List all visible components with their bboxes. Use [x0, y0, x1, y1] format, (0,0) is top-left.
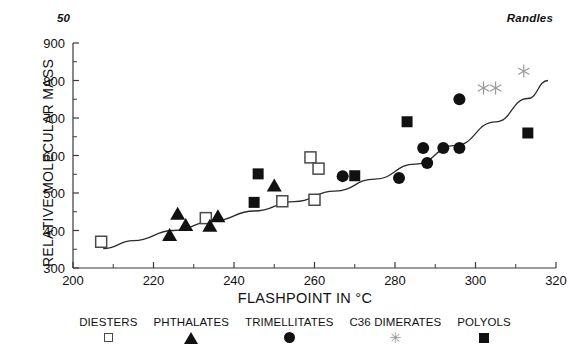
filled-circle-icon	[284, 332, 295, 343]
trend-line	[103, 81, 548, 249]
legend-item-label: TRIMELLITATES	[245, 317, 333, 329]
series-polyols	[249, 116, 534, 208]
legend-item-c36-dimerates[interactable]: C36 DIMERATES✳	[349, 317, 441, 344]
legend-item-label: PHTHALATES	[153, 317, 229, 329]
marker-filled-circle	[393, 172, 405, 184]
x-tick-label: 320	[545, 273, 567, 288]
legend-filled-circle-icon	[284, 332, 295, 344]
filled-triangle-icon	[184, 332, 198, 344]
figure-page: 50 Randles 30040050060070080090020022024…	[0, 0, 570, 351]
marker-filled-circle	[337, 170, 349, 182]
marker-filled-square	[522, 128, 533, 139]
legend-item-label: C36 DIMERATES	[349, 317, 441, 329]
marker-filled-circle	[417, 142, 429, 154]
filled-square-icon	[479, 333, 489, 343]
marker-filled-square	[402, 116, 413, 127]
x-tick-label: 280	[384, 273, 406, 288]
x-tick-label: 260	[304, 273, 326, 288]
marker-filled-circle	[453, 142, 465, 154]
marker-open-square	[313, 163, 324, 174]
legend-item-label: POLYOLS	[457, 317, 511, 329]
x-tick-label: 240	[223, 273, 245, 288]
x-tick-label: 220	[143, 273, 165, 288]
legend-asterisk-icon: ✳	[389, 332, 402, 344]
x-tick-label: 300	[465, 273, 487, 288]
marker-filled-triangle	[210, 209, 225, 222]
x-axis-title: FLASHPOINT IN °C	[0, 290, 570, 306]
marker-open-square	[305, 152, 316, 163]
marker-filled-triangle	[267, 179, 282, 192]
marker-filled-square	[249, 197, 260, 208]
marker-filled-circle	[437, 142, 449, 154]
legend-item-polyols[interactable]: POLYOLS	[457, 317, 511, 344]
legend-filled-square-icon	[479, 332, 489, 344]
series-c36-dimerates	[478, 65, 530, 95]
marker-open-square	[309, 194, 320, 205]
marker-filled-square	[349, 170, 360, 181]
legend-open-square-icon	[104, 332, 113, 344]
marker-filled-circle	[421, 157, 433, 169]
legend-item-trimellitates[interactable]: TRIMELLITATES	[245, 317, 333, 344]
legend-item-diesters[interactable]: DIESTERS	[79, 317, 137, 344]
marker-open-square	[96, 236, 107, 247]
marker-filled-circle	[453, 93, 465, 105]
marker-filled-square	[253, 168, 264, 179]
asterisk-icon: ✳	[389, 333, 402, 343]
legend-item-phthalates[interactable]: PHTHALATES	[153, 317, 229, 344]
y-axis-title: RELATIVE MOLECULAR MASS	[40, 43, 56, 283]
open-square-icon	[104, 333, 113, 342]
marker-open-square	[277, 196, 288, 207]
series-diesters	[96, 152, 324, 247]
marker-filled-triangle	[178, 218, 193, 231]
chart-legend: DIESTERSPHTHALATESTRIMELLITATESC36 DIMER…	[0, 317, 570, 344]
legend-item-label: DIESTERS	[79, 317, 137, 329]
x-tick-label: 200	[62, 273, 84, 288]
marker-filled-triangle	[170, 207, 185, 220]
legend-filled-triangle-icon	[184, 332, 198, 344]
